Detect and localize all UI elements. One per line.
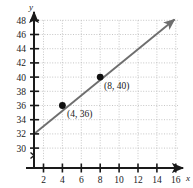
- ytick-label-48: 48: [17, 16, 27, 26]
- ytick-label-46: 46: [17, 30, 27, 40]
- xtick-label-14: 14: [152, 175, 162, 185]
- xtick-label-16: 16: [171, 175, 181, 185]
- xtick-label-6: 6: [79, 175, 84, 185]
- x-axis-label: x: [185, 173, 190, 183]
- data-point-label: (8, 40): [104, 81, 129, 92]
- ytick-label-36: 36: [17, 101, 27, 111]
- data-point-marker: [59, 102, 66, 109]
- data-point-marker: [97, 74, 104, 81]
- ytick-label-40: 40: [17, 73, 27, 83]
- ytick-label-34: 34: [17, 115, 27, 125]
- data-point-label: (4, 36): [67, 109, 92, 120]
- y-axis-tick-labels: 48 46 44 42 40 38 36 34 32 30: [17, 16, 27, 154]
- xtick-label-10: 10: [114, 175, 124, 185]
- xtick-label-8: 8: [98, 175, 103, 185]
- ytick-label-44: 44: [17, 44, 27, 54]
- coordinate-plane-svg: 48 46 44 42 40 38 36 34 32 30 2 4 6 8 10…: [0, 0, 193, 188]
- xtick-label-4: 4: [60, 175, 65, 185]
- ytick-label-32: 32: [17, 129, 27, 139]
- ytick-label-38: 38: [17, 87, 27, 97]
- xtick-label-2: 2: [41, 175, 46, 185]
- x-axis-tick-labels: 2 4 6 8 10 12 14 16: [41, 175, 181, 185]
- chart-figure: 48 46 44 42 40 38 36 34 32 30 2 4 6 8 10…: [0, 0, 193, 188]
- ytick-label-42: 42: [17, 58, 27, 68]
- ytick-label-30: 30: [17, 144, 27, 154]
- xtick-label-12: 12: [133, 175, 143, 185]
- y-axis-label: y: [28, 2, 33, 12]
